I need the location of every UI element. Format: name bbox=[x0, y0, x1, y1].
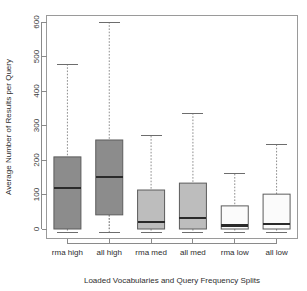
x-tick-label-rma-med: rma med bbox=[135, 248, 167, 257]
box-body bbox=[179, 183, 206, 229]
y-tick-label: 600 bbox=[32, 15, 41, 29]
x-axis-title: Loaded Vocabularies and Query Frequency … bbox=[84, 276, 260, 285]
y-tick-label: 400 bbox=[32, 84, 41, 98]
y-tick-label: 100 bbox=[32, 187, 41, 201]
x-tick-label-rma-low: rma low bbox=[221, 248, 249, 257]
y-tick-label: 200 bbox=[32, 153, 41, 167]
boxplot-chart: 0100200300400500600 rma highall highrma … bbox=[0, 0, 307, 291]
box-body bbox=[54, 157, 81, 229]
x-tick-label-rma-high: rma high bbox=[52, 248, 83, 257]
x-tick-label-all-low: all low bbox=[265, 248, 287, 257]
y-tick-label: 0 bbox=[32, 226, 41, 231]
y-tick-label: 500 bbox=[32, 49, 41, 63]
y-tick-label: 300 bbox=[32, 118, 41, 132]
x-tick-label-all-high: all high bbox=[97, 248, 122, 257]
chart-canvas: 0100200300400500600 rma highall highrma … bbox=[0, 0, 307, 291]
y-axis-title: Average Number of Results per Query bbox=[4, 59, 13, 195]
x-tick-label-all-med: all med bbox=[180, 248, 206, 257]
